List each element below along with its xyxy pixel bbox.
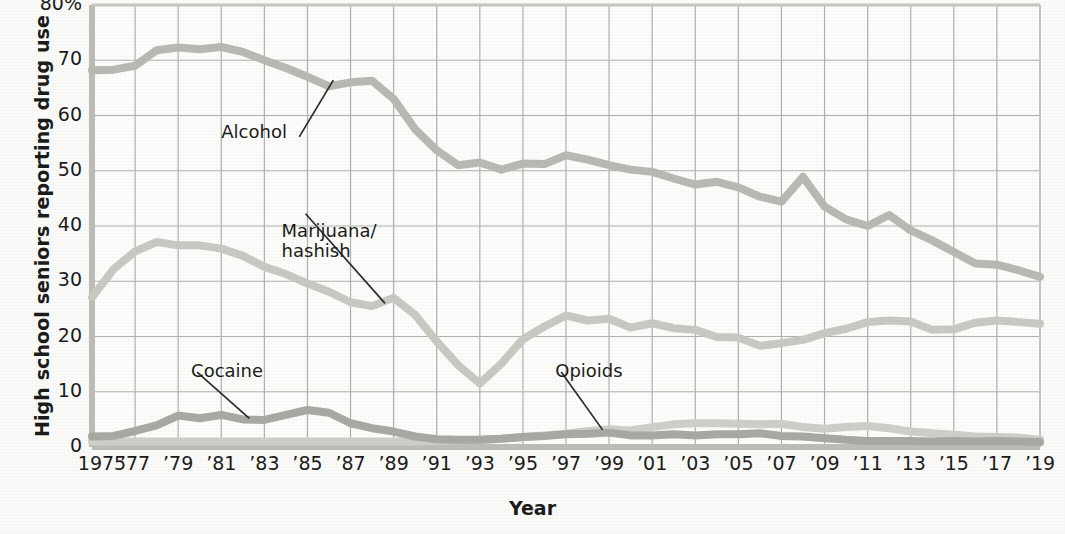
- series-label-marijuana-hashish: Marijuana/ hashish: [282, 221, 377, 261]
- plot-area: [0, 0, 1065, 534]
- drug-use-line-chart: High school seniors reporting drug use Y…: [0, 0, 1065, 534]
- series-label-opioids: Opioids: [555, 361, 622, 381]
- series-label-alcohol: Alcohol: [221, 122, 287, 142]
- series-label-cocaine: Cocaine: [191, 361, 263, 381]
